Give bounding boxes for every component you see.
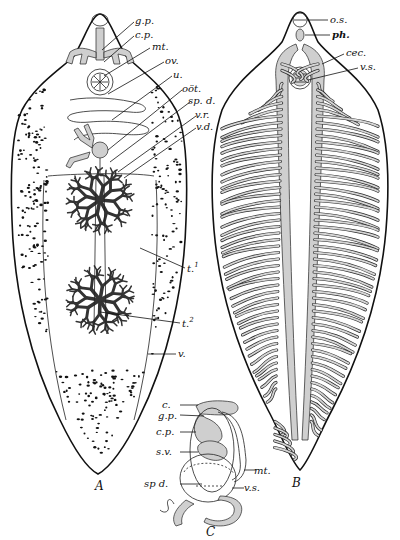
vitelline-follicle <box>106 393 109 394</box>
testis-branch <box>97 171 98 178</box>
vitelline-follicle <box>92 441 95 442</box>
testis-branch <box>72 190 75 194</box>
vitelline-follicle <box>93 446 96 449</box>
vitelline-follicle <box>93 379 97 381</box>
testis-branch <box>129 291 134 293</box>
vitelline-follicle <box>102 393 105 395</box>
vitelline-follicle <box>19 149 22 152</box>
vitelline-follicle <box>159 176 161 178</box>
testis-branch <box>107 227 108 232</box>
cecal-diverticula-b <box>222 64 378 460</box>
testis-branch <box>101 329 105 332</box>
testis-branch <box>122 196 129 197</box>
vitelline-follicle <box>92 415 94 417</box>
vitelline-follicle <box>135 382 137 383</box>
testes-a <box>66 167 134 334</box>
vitelline-follicle <box>17 140 20 142</box>
testis-branch <box>97 278 102 287</box>
vitelline-follicle <box>163 239 165 241</box>
label-c-sv: s.v. <box>156 446 172 457</box>
vitelline-follicle <box>28 107 31 109</box>
vitelline-follicle <box>19 225 21 227</box>
label-c-mt: mt. <box>254 465 271 476</box>
vitelline-follicle <box>34 316 37 317</box>
vitelline-follicle <box>162 117 164 119</box>
label-a-mt: mt. <box>152 41 169 52</box>
vitelline-follicle <box>24 195 27 197</box>
label-a-u: u. <box>173 69 183 80</box>
vitelline-follicle <box>131 385 134 387</box>
vitelline-follicle <box>170 280 174 282</box>
label-c-spd: sp d. <box>144 478 168 489</box>
testis-branch <box>120 285 123 289</box>
vitelline-follicle <box>104 409 106 411</box>
vitelline-follicle <box>96 427 100 429</box>
vitelline-follicle <box>104 386 107 389</box>
vitelline-follicle <box>113 382 115 384</box>
vitelline-follicle <box>176 190 179 192</box>
testis-branch <box>77 209 79 214</box>
vitelline-follicle <box>68 401 70 403</box>
vitelline-follicle <box>151 92 154 94</box>
vitelline-follicle <box>91 401 94 403</box>
vitelline-follicle <box>154 153 156 155</box>
testis-branch <box>106 170 107 175</box>
vitelline-follicle <box>46 202 49 204</box>
vitelline-follicle <box>27 127 29 129</box>
ootype-a <box>92 142 108 158</box>
vitelline-follicle <box>21 123 24 125</box>
vitelline-follicle <box>61 382 64 383</box>
vitelline-follicle <box>27 187 30 189</box>
vitelline-follicle <box>175 228 177 230</box>
vitelline-follicle <box>106 416 108 417</box>
testis-branch <box>89 329 93 333</box>
testis-branch <box>69 285 72 289</box>
vitelline-follicle <box>94 382 97 384</box>
vitelline-follicle <box>35 149 38 151</box>
vitelline-follicle <box>163 293 166 295</box>
vitelline-follicle <box>82 412 85 414</box>
vitelline-follicle <box>163 262 166 264</box>
vitelline-follicle <box>166 255 168 257</box>
vitelline-follicle <box>181 140 183 141</box>
vitelline-follicle <box>104 446 106 448</box>
vitelline-follicle <box>33 167 36 169</box>
testis-branch <box>123 286 127 290</box>
vitelline-follicle <box>166 191 169 193</box>
vitelline-follicle <box>95 397 98 400</box>
vitelline-follicle <box>153 315 156 316</box>
testis-branch <box>90 168 91 173</box>
vitelline-follicle <box>84 432 86 434</box>
vitelline-follicle <box>40 261 43 263</box>
label-c-vs: v.s. <box>244 482 260 493</box>
testis-branch <box>96 167 99 172</box>
vitelline-follicle <box>100 374 102 376</box>
vitelline-follicle <box>32 237 35 239</box>
vitelline-follicle <box>165 190 168 192</box>
vitelline-follicle <box>27 225 29 227</box>
vitelline-follicle <box>179 164 182 166</box>
vitelline-follicle <box>41 107 43 109</box>
vitelline-follicle <box>28 184 30 186</box>
vitelline-follicle <box>26 207 29 209</box>
vitelline-follicle <box>87 395 90 398</box>
vitelline-follicle <box>87 381 89 384</box>
vitelline-follicle <box>116 417 119 419</box>
vitelline-follicle <box>122 401 125 402</box>
vitelline-follicle <box>152 215 154 218</box>
vitelline-follicle <box>26 113 28 114</box>
vitelline-follicle <box>109 395 112 397</box>
vitelline-follicle <box>29 154 32 156</box>
testis-branch <box>112 284 115 294</box>
vitelline-follicle <box>179 241 182 244</box>
vitelline-follicle <box>180 201 182 202</box>
vitelline-follicle <box>152 262 155 264</box>
vitelline-follicle <box>166 165 169 166</box>
vitelline-follicle <box>138 375 140 378</box>
vitelline-follicle <box>160 271 163 273</box>
vitelline-follicle <box>33 157 35 159</box>
vitelline-follicle <box>34 225 37 227</box>
vitelline-follicle <box>170 209 173 211</box>
vitelline-follicle <box>39 204 43 207</box>
vitelline-follicle <box>31 207 33 209</box>
